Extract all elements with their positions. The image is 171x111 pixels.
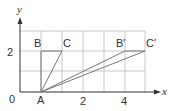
axes	[20, 22, 156, 92]
point-c-label: C	[63, 37, 71, 49]
point-b-label: B	[34, 37, 41, 49]
y-axis-label: y	[16, 3, 22, 15]
x-axis-label: x	[161, 85, 167, 97]
point-a-label: A	[37, 94, 45, 106]
x-tick-4: 4	[121, 95, 127, 107]
origin-label: 0	[9, 93, 15, 105]
x-tick-2: 2	[80, 95, 86, 107]
x-axis-arrow-icon	[154, 90, 161, 95]
point-c-prime-label: C′	[146, 37, 156, 49]
point-b-prime-label: B′	[116, 37, 125, 49]
coordinate-diagram: y x 0 A 2 4 2 B C B′ C′	[0, 0, 171, 111]
y-axis-arrow-icon	[18, 17, 23, 24]
y-tick-2: 2	[7, 46, 13, 58]
